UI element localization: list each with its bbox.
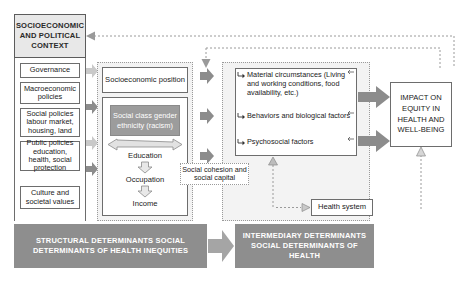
- context-item-label: Public policies education, health, socia…: [21, 139, 79, 172]
- bullet-label: Behaviors and biological factors: [247, 111, 350, 120]
- impact-box[interactable]: IMPACT ON EQUITY IN HEALTH AND WELL-BEIN…: [390, 82, 452, 147]
- intermediary-banner: INTERMEDIARY DETERMINANTS SOCIAL DETERMI…: [235, 224, 374, 268]
- context-item-governance[interactable]: Governance: [20, 63, 80, 78]
- context-item-social-policies[interactable]: Social policies labour market, housing, …: [20, 108, 80, 137]
- chain-occupation: Occupation: [102, 175, 188, 184]
- impact-feedback-up-arrow: [416, 147, 426, 209]
- chain-label: Education: [128, 151, 162, 160]
- social-class-gender-ethnicity-box[interactable]: Social class gender ethnicity (racism): [110, 105, 180, 136]
- context-header-label: SOCIOECONOMIC AND POLITICAL CONTEXT: [15, 21, 85, 51]
- social-class-label: Social class gender ethnicity (racism): [111, 111, 179, 129]
- structural-to-intermediary-arrows: [200, 68, 216, 168]
- intermediary-bullet-psychosocial: Psychosocial factors: [247, 137, 351, 146]
- bullet-label: Material circumstances (Living and worki…: [247, 70, 345, 97]
- structural-banner: STRUCTURAL DETERMINANTS SOCIAL DETERMINA…: [14, 224, 207, 268]
- banner-connector-arrow: [208, 230, 234, 262]
- context-item-label: Social policies labour market, housing, …: [21, 110, 79, 135]
- sdh-framework-diagram: SOCIOECONOMIC AND POLITICAL CONTEXT Gove…: [0, 0, 463, 287]
- chain-down-arrow-2: [138, 186, 152, 197]
- structural-banner-label: STRUCTURAL DETERMINANTS SOCIAL DETERMINA…: [14, 236, 207, 256]
- context-item-macroeconomic-policies[interactable]: Macroeconomic policies: [20, 82, 80, 104]
- intermediary-bullet-behaviors: Behaviors and biological factors: [247, 111, 351, 120]
- bullet-hook-icon-1: [237, 72, 245, 79]
- socioeconomic-position-label: Socioeconomic position: [105, 76, 185, 85]
- intermediary-to-impact-arrows: [358, 86, 390, 158]
- bullet-return-ticks: [337, 70, 355, 146]
- social-cohesion-box[interactable]: Social cohesion and social capital: [180, 163, 249, 185]
- chain-down-arrow-1: [138, 162, 152, 173]
- bullet-label: Psychosocial factors: [247, 137, 314, 146]
- health-system-box[interactable]: Health system: [311, 199, 373, 216]
- bullet-hook-icon-3: [237, 139, 245, 146]
- chain-education: Education: [102, 151, 188, 160]
- health-system-in-arrow: [276, 203, 310, 212]
- context-item-public-policies[interactable]: Public policies education, health, socia…: [20, 141, 80, 171]
- context-item-culture-values[interactable]: Culture and societal values: [20, 186, 80, 209]
- context-header: SOCIOECONOMIC AND POLITICAL CONTEXT: [14, 14, 86, 58]
- intermediary-banner-label: INTERMEDIARY DETERMINANTS SOCIAL DETERMI…: [235, 231, 374, 261]
- context-item-label: Governance: [30, 66, 70, 74]
- health-system-up-arrow: [268, 157, 278, 207]
- socioeconomic-position-box[interactable]: Socioeconomic position: [102, 67, 188, 93]
- context-item-label: Culture and societal values: [21, 189, 79, 206]
- context-item-label: Macroeconomic policies: [21, 85, 79, 102]
- chain-label: Occupation: [126, 175, 164, 184]
- chain-income: Income: [102, 199, 188, 208]
- chain-label: Income: [133, 199, 158, 208]
- social-cohesion-label: Social cohesion and social capital: [181, 166, 248, 183]
- intermediary-bullet-material-circumstances: Material circumstances (Living and worki…: [247, 70, 351, 97]
- bidirectional-arrow: [108, 139, 182, 150]
- global-feedback-loop: [86, 28, 461, 68]
- impact-label: IMPACT ON EQUITY IN HEALTH AND WELL-BEIN…: [391, 93, 451, 136]
- health-system-label: Health system: [318, 203, 366, 212]
- bullet-hook-icon-2: [237, 113, 245, 120]
